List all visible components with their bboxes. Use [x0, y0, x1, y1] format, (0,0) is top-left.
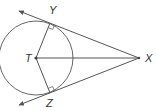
tangent-diagram: Y T X Z — [0, 0, 157, 111]
label-y: Y — [49, 4, 57, 16]
point-t — [34, 56, 37, 59]
radius-tz — [36, 58, 50, 93]
diagram-svg: Y T X Z — [0, 0, 157, 111]
label-t: T — [25, 52, 33, 64]
point-x — [138, 57, 140, 59]
label-z: Z — [45, 97, 54, 109]
tangent-ray-xz — [19, 58, 139, 105]
radius-ty — [36, 23, 50, 58]
tangent-ray-xy — [19, 11, 139, 58]
label-x: X — [144, 52, 153, 64]
